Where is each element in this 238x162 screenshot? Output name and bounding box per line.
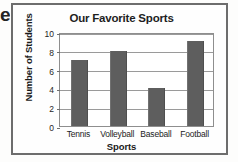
chart-title: Our Favorite Sports <box>13 12 230 24</box>
x-tick-label: Baseball <box>140 129 171 139</box>
y-axis-title: Number of Students <box>23 10 34 106</box>
y-tick-label: 10 <box>38 29 54 39</box>
y-tick-label: 4 <box>38 85 54 95</box>
bar-tennis <box>71 60 88 126</box>
plot-area: 0246810 <box>59 33 214 127</box>
page-bleed-glyph: e <box>0 4 10 26</box>
x-tick-label: Tennis <box>67 129 90 139</box>
x-tick-label: Volleyball <box>100 129 134 139</box>
bar-volleyball <box>110 51 127 126</box>
x-axis-tick-labels: TennisVolleyballBaseballFootball <box>59 129 214 141</box>
y-tick-label: 2 <box>38 104 54 114</box>
bar-football <box>187 41 204 126</box>
y-tick-label: 8 <box>38 48 54 58</box>
bar-baseball <box>148 88 165 126</box>
chart-figure-frame: Our Favorite Sports Number of Students 0… <box>11 3 228 155</box>
y-tick-label: 6 <box>38 67 54 77</box>
x-tick-label: Football <box>180 129 209 139</box>
bars-layer <box>60 34 213 126</box>
x-axis-title: Sports <box>13 141 230 152</box>
y-tick-label: 0 <box>38 123 54 133</box>
